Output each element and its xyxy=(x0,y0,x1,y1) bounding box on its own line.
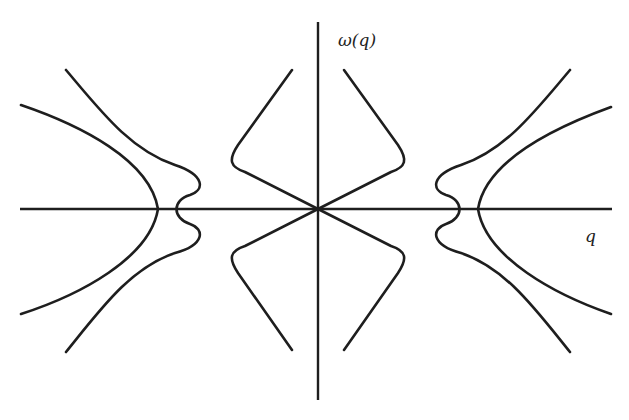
right-inner-branch xyxy=(436,70,570,352)
center-left-upper xyxy=(232,70,318,209)
dispersion-curves xyxy=(21,70,611,352)
y-axis-label: ω(q) xyxy=(338,32,376,49)
right-outer-branch xyxy=(478,107,611,314)
center-left-lower xyxy=(232,209,318,350)
x-axis-label: q xyxy=(585,228,596,245)
dispersion-diagram xyxy=(0,0,629,420)
center-right-upper xyxy=(318,70,404,209)
left-inner-branch xyxy=(66,70,200,352)
center-right-lower xyxy=(318,209,404,350)
